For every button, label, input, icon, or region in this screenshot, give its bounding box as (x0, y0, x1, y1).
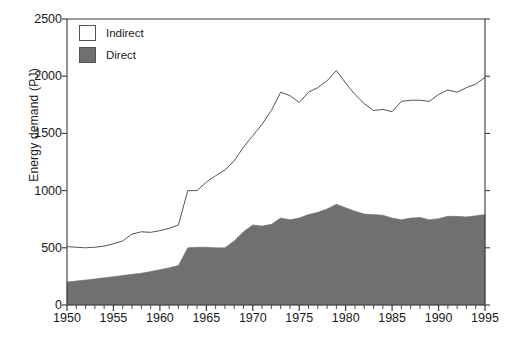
x-tick-label: 1950 (53, 311, 81, 325)
series-layer (67, 70, 485, 305)
x-tick-label: 1960 (146, 311, 174, 325)
x-tick-label: 1965 (192, 311, 220, 325)
x-tick-label: 1980 (332, 311, 360, 325)
x-tick-label: 1985 (378, 311, 406, 325)
y-tick-label: 500 (41, 241, 62, 255)
legend-label-direct: Direct (106, 49, 136, 61)
x-tick-label: 1955 (99, 311, 127, 325)
y-tick-label: 0 (55, 298, 62, 312)
legend-swatch-indirect (79, 25, 96, 41)
y-tick-label: 1000 (34, 184, 62, 198)
legend-swatch-direct (79, 47, 96, 63)
plot-area (0, 0, 509, 344)
chart-figure: Energy demand (PJ) 0 500 1000 1500 2000 … (0, 0, 509, 344)
legend-label-indirect: Indirect (106, 27, 144, 39)
y-tick-label: 2500 (34, 12, 62, 26)
x-tick-label: 1995 (471, 311, 499, 325)
y-axis-tick-labels: 0 500 1000 1500 2000 2500 (0, 0, 62, 344)
y-tick-label: 1500 (34, 126, 62, 140)
x-tick-label: 1975 (285, 311, 313, 325)
x-tick-label: 1990 (425, 311, 453, 325)
y-tick-label: 2000 (34, 69, 62, 83)
x-tick-label: 1970 (239, 311, 267, 325)
